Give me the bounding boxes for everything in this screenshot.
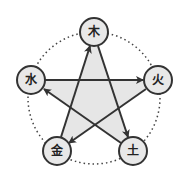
node-label-fire: 火 [152,73,165,87]
node-label-water: 水 [25,72,38,87]
node-label-wood: 木 [87,24,101,39]
node-label-earth: 土 [127,143,139,158]
node-wood: 木 [80,18,108,46]
node-fire: 火 [144,66,172,94]
node-metal: 金 [43,137,71,165]
node-earth: 土 [119,137,147,165]
node-label-metal: 金 [50,143,64,158]
node-water: 水 [17,66,45,94]
five-elements-diagram: 木 火 土 金 水 [0,0,187,181]
